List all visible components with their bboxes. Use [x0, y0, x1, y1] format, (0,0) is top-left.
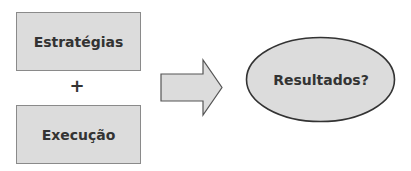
results-label: Resultados? — [273, 72, 369, 88]
right-arrow-icon — [161, 60, 222, 115]
results-label-container: Resultados? — [246, 37, 396, 123]
